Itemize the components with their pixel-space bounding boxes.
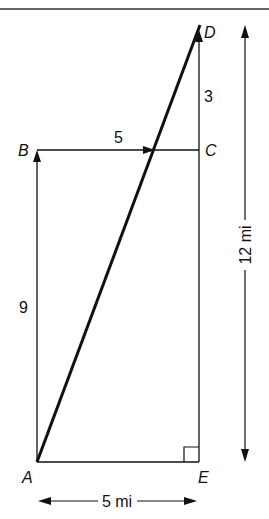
point-label-C: C [205,142,217,159]
segment-label-CD: 3 [204,88,213,105]
dimension-label-width: 5 mi [102,493,132,510]
resultant-AD [37,25,200,462]
segment-label-BC: 5 [114,129,123,146]
displacement-diagram: D B C A E 3 5 9 5 mi 12 mi [0,0,269,519]
point-label-D: D [204,24,216,41]
dimension-width-arrow-right [184,497,197,505]
segment-label-AB: 9 [19,299,28,316]
right-angle-mark [184,447,199,462]
dimension-label-height: 12 mi [237,225,254,264]
point-label-B: B [18,142,29,159]
point-label-A: A [21,469,33,486]
dimension-width-arrow-left [38,497,51,505]
dimension-height-arrow-bottom [241,449,249,462]
arrowhead-AB [33,150,41,162]
point-label-E: E [198,469,209,486]
dimension-height-arrow-top [241,25,249,38]
